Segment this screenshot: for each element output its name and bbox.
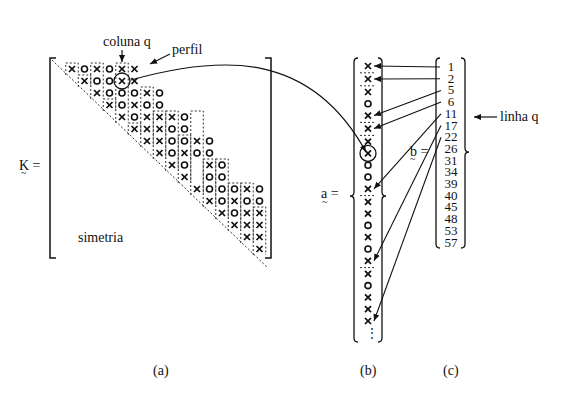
caption-b: (b) — [360, 363, 377, 379]
vector-a-entry — [365, 126, 371, 132]
matrix-entry-nonzero — [157, 138, 163, 144]
b-tilde: ~ — [410, 153, 416, 164]
skyline-storage-diagram: coluna q perfil K = ~ simetria a = ~ ⋮ b… — [0, 0, 566, 401]
pointer-arrow — [374, 137, 441, 321]
matrix-entry-nonzero — [257, 222, 263, 228]
matrix-entry-nonzero — [107, 102, 113, 108]
panel-c-vector-b: b = ~ 1256111722263134394045485357 linha… — [374, 58, 539, 321]
matrix-entry-zero — [169, 138, 175, 144]
matrix-entry-nonzero — [182, 150, 188, 156]
matrix-entry-zero — [182, 162, 188, 168]
matrix-entry-zero — [219, 162, 225, 168]
vector-b-entry: 57 — [445, 235, 459, 250]
matrix-entry-zero — [157, 102, 163, 108]
matrix-entry-nonzero — [157, 114, 163, 120]
column-q-label: coluna q — [103, 34, 151, 49]
matrix-entry-nonzero — [257, 234, 263, 240]
matrix-entry-nonzero — [194, 186, 200, 192]
matrix-entry-nonzero — [144, 138, 150, 144]
matrix-entry-nonzero — [257, 210, 263, 216]
vector-a-entry — [365, 294, 371, 300]
matrix-entry-zero — [232, 186, 238, 192]
matrix-entry-nonzero — [207, 198, 213, 204]
matrix-entry-nonzero — [244, 234, 250, 240]
matrix-entry-zero — [157, 90, 163, 96]
vector-a-entry — [365, 306, 371, 312]
matrix-entry-nonzero — [144, 114, 150, 120]
panel-a-matrix: coluna q perfil K = ~ simetria — [19, 34, 366, 268]
matrix-entry-nonzero — [244, 222, 250, 228]
matrix-entry-nonzero — [194, 138, 200, 144]
matrix-entry-zero — [107, 66, 113, 72]
b-right-brace — [461, 58, 469, 248]
vector-b-entries: 1256111722263134394045485357 — [445, 59, 459, 250]
matrix-entry-zero — [132, 114, 138, 120]
pointer-arrow — [374, 66, 440, 67]
matrix-entry-nonzero — [144, 126, 150, 132]
matrix-entry-zero — [182, 114, 188, 120]
a-left-brace — [350, 58, 358, 342]
matrix-entry-nonzero — [119, 66, 125, 72]
matrix-entry-nonzero — [132, 66, 138, 72]
profile-label: perfil — [172, 42, 202, 57]
vector-a-entry — [365, 89, 371, 95]
matrix-entry-zero — [257, 198, 263, 204]
matrix-entry-zero — [194, 150, 200, 156]
matrix-entry-nonzero — [94, 90, 100, 96]
vector-a-entry — [365, 271, 371, 277]
vector-a-entry — [365, 162, 371, 168]
matrix-entry-zero — [132, 90, 138, 96]
vector-a-entry — [365, 139, 371, 145]
vector-a-entry — [365, 63, 371, 69]
matrix-left-bracket — [50, 58, 56, 258]
matrix-entry-nonzero — [157, 126, 163, 132]
matrix-entry-zero — [207, 174, 213, 180]
a-tilde: ~ — [322, 196, 328, 207]
vector-a-entry — [365, 199, 371, 205]
matrix-entry-zero — [219, 186, 225, 192]
matrix-entry-nonzero — [69, 66, 75, 72]
matrix-entry-zero — [169, 150, 175, 156]
vector-a-entry — [365, 222, 371, 228]
profile-arrow — [150, 54, 170, 64]
b-left-bracket — [436, 58, 440, 248]
vector-a-entry — [365, 283, 371, 289]
vector-a-entry — [365, 113, 371, 119]
matrix-entry-nonzero — [94, 66, 100, 72]
vector-a-entry — [365, 101, 371, 107]
panel-b-vector-a: a = ~ ⋮ — [321, 58, 386, 342]
matrix-entry-nonzero — [182, 174, 188, 180]
matrix-entry-nonzero — [132, 102, 138, 108]
vector-a-entries: ⋮ — [360, 63, 378, 340]
matrix-entry-zero — [169, 126, 175, 132]
matrix-entry-nonzero — [144, 90, 150, 96]
matrix-entry-nonzero — [169, 114, 175, 120]
symmetry-label: simetria — [78, 230, 124, 245]
matrix-entry-nonzero — [244, 210, 250, 216]
matrix-entry-nonzero — [119, 114, 125, 120]
matrix-entry-nonzero — [169, 162, 175, 168]
vector-a-ellipsis: ⋮ — [366, 326, 378, 340]
matrix-entry-nonzero — [244, 186, 250, 192]
matrix-entry-zero — [257, 186, 263, 192]
column-profile-box — [116, 63, 129, 123]
matrix-entry-zero — [232, 210, 238, 216]
matrix-entry-zero — [182, 126, 188, 132]
vector-a-entry — [360, 145, 376, 161]
matrix-entry-nonzero — [232, 222, 238, 228]
matrix-entry-nonzero — [132, 126, 138, 132]
row-q-label: linha q — [500, 109, 539, 124]
vector-a-entry — [365, 318, 371, 324]
matrix-entry-zero — [94, 78, 100, 84]
matrix-entry-nonzero — [219, 210, 225, 216]
matrix-entry-zero — [107, 90, 113, 96]
matrix-entry-nonzero — [257, 246, 263, 252]
pointer-arrows — [374, 66, 441, 321]
matrix-entry-zero — [207, 150, 213, 156]
matrix-entry-nonzero — [232, 198, 238, 204]
matrix-entry-zero — [244, 198, 250, 204]
vector-a-entry — [365, 186, 371, 192]
vector-a-entry — [365, 211, 371, 217]
vector-a-entry — [365, 246, 371, 252]
matrix-entry-zero — [144, 102, 150, 108]
